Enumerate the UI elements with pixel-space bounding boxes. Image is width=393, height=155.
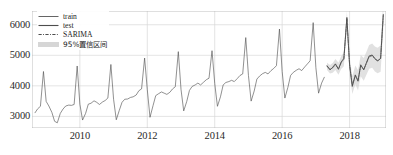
legend-swatch-icon [38,12,59,21]
x-axis-tick-labels: 20102012201420162018 [32,130,386,150]
x-tick-label: 2016 [272,130,292,141]
legend-item-test: test [38,21,107,30]
x-tick-label: 2018 [339,130,359,141]
x-tick-label: 2014 [205,130,225,141]
y-tick-label: 5000 [0,50,30,60]
y-axis-tick-labels: 3000400050006000 [0,11,30,128]
x-tick-label: 2010 [70,130,90,141]
legend-item-train: train [38,12,107,21]
confidence-interval-band [327,11,383,94]
legend-label: 95%置信区间 [63,40,107,49]
chart-figure: 3000400050006000 20102012201420162018 tr… [0,0,393,155]
legend-label: test [63,21,74,30]
legend-label: SARIMA [63,30,93,39]
x-tick-label: 2012 [137,130,157,141]
y-tick-label: 6000 [0,20,30,30]
y-tick-label: 4000 [0,81,30,91]
legend-item-sarima: SARIMA [38,30,107,39]
legend-swatch-icon [38,30,59,39]
legend-swatch-icon [38,40,59,49]
y-tick-label: 3000 [0,111,30,121]
legend-label: train [63,12,77,21]
legend-swatch-icon [38,21,59,30]
chart-legend: traintestSARIMA95%置信区间 [37,11,109,50]
legend-item-95: 95%置信区间 [38,40,107,49]
